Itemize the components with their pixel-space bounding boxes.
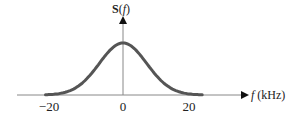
x-axis-arrow-icon	[241, 91, 249, 99]
x-tick-20: 20	[183, 100, 196, 113]
x-axis-label: f (kHz)	[251, 89, 285, 101]
x-tick-0: 0	[120, 100, 127, 113]
y-axis-label: S(f)	[112, 3, 130, 15]
y-axis-label-args: (f)	[119, 2, 130, 16]
y-axis-arrow-icon	[119, 16, 127, 24]
x-tick-neg20: −20	[39, 100, 59, 113]
spectrum-chart: S(f) f (kHz) −20 0 20	[0, 0, 298, 115]
y-axis-label-s: S	[112, 2, 119, 16]
spectrum-curve	[46, 43, 203, 95]
